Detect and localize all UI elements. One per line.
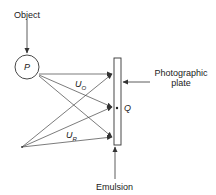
uo-label: UO [75,79,86,93]
object-label: Object [14,10,40,20]
hologram-recording-diagram: Object P UO UR Q Photographic plate Emul… [0,0,216,195]
uo-subscript: O [82,85,87,91]
p-label: P [24,62,30,72]
reference-source-point [21,146,23,148]
photographic-plate-label: Photographic plate [152,68,210,88]
diagram-graphics [0,0,216,195]
plate-label-line1: Photographic [152,68,210,78]
ur-subscript: R [73,136,77,142]
q-label: Q [124,103,131,113]
ur-label: UR [66,130,77,144]
photographic-plate [114,58,121,145]
point-q-dot [116,107,118,109]
emulsion-label: Emulsion [96,182,133,192]
plate-label-line2: plate [152,78,210,88]
